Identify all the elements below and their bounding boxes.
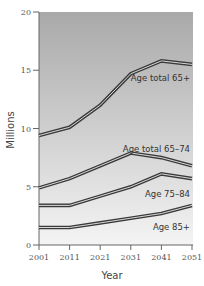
y-tick-label: 15 — [21, 66, 31, 75]
series-label-65-74: Age total 65–74 — [123, 144, 190, 154]
series-label-85-plus: Age 85+ — [153, 222, 190, 232]
x-tick-label: 2041 — [151, 253, 171, 262]
x-tick-label: 2011 — [59, 253, 79, 262]
y-tick-label: 0 — [26, 241, 31, 250]
y-tick-label: 20 — [21, 8, 31, 17]
x-tick-label: 2051 — [182, 253, 202, 262]
x-tick-label: 2031 — [121, 253, 141, 262]
y-tick-label: 5 — [26, 183, 31, 192]
series-label-65-plus: Age total 65+ — [131, 73, 190, 83]
x-axis-title: Year — [100, 270, 123, 281]
x-tick-label: 2001 — [29, 253, 49, 262]
x-tick-label: 2021 — [90, 253, 110, 262]
line-chart: 05101520200120112021203120412051 Age tot… — [0, 0, 204, 286]
series-label-75-84: Age 75–84 — [145, 189, 190, 199]
y-axis-title: Millions — [5, 111, 16, 148]
y-tick-label: 10 — [21, 125, 31, 134]
